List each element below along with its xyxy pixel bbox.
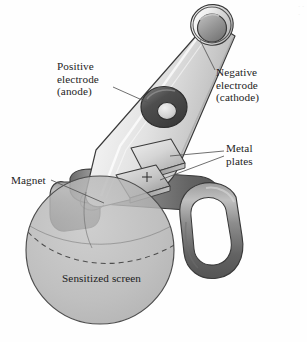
label-positive-electrode-line3: (anode) (57, 85, 99, 98)
label-magnet: Magnet (11, 174, 46, 187)
label-magnet-line1: Magnet (11, 174, 46, 187)
label-positive-electrode-line1: Positive (57, 60, 99, 73)
label-metal-plates-line2: plates (226, 155, 253, 168)
label-negative-electrode-line3: (cathode) (216, 91, 259, 104)
page-edge-artifact: · · · (298, 3, 306, 19)
label-positive-electrode: Positive electrode (anode) (57, 60, 99, 98)
positive-electrode-anode (141, 87, 187, 128)
label-metal-plates-line1: Metal (226, 142, 253, 155)
magnet-front-arm (180, 183, 243, 279)
label-negative-electrode-line1: Negative (216, 66, 259, 79)
label-positive-electrode-line2: electrode (57, 73, 99, 86)
figure-canvas: Positive electrode (anode) Negative elec… (0, 0, 307, 342)
cathode-ray-tube-illustration (0, 0, 307, 342)
label-sensitized-screen: Sensitized screen (62, 272, 141, 285)
negative-electrode-cathode (198, 14, 227, 42)
label-sensitized-screen-line1: Sensitized screen (62, 272, 141, 285)
label-metal-plates: Metal plates (226, 142, 253, 167)
label-negative-electrode: Negative electrode (cathode) (216, 66, 259, 104)
label-negative-electrode-line2: electrode (216, 79, 259, 92)
